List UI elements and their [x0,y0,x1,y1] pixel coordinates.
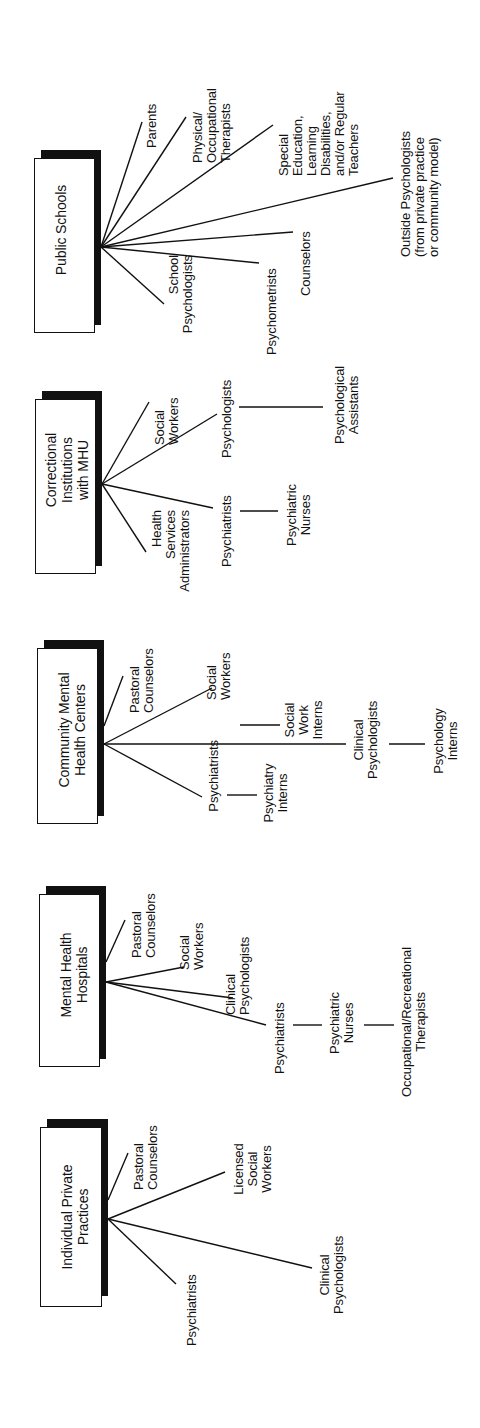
role-teachers: Special Education, Learning Disabilities… [277,56,361,176]
role-psychiatrists: Psychiatrists [220,457,234,567]
role-licensed-social-workers: Licensed Social Workers [232,1129,274,1209]
role-outside-psychologists: Outside Psychologists (from private prac… [399,77,441,257]
role-clinical-psychologists: Clinical Psychologists [224,895,252,1015]
role-pastoral-counselors: Pastoral Counselors [128,613,156,713]
role-clinical-psychologists: Clinical Psychologists [318,1220,346,1330]
label-public-schools: Public Schools [53,155,69,305]
role-parents: Parents [145,78,159,148]
subrole-psychiatric-nurses: Psychiatric Nurses [285,470,313,560]
label-mental-health-hospitals: Mental Health Hospitals [58,900,90,1050]
role-psychiatrists: Psychiatrists [207,740,221,850]
role-pastoral-counselors: Pastoral Counselors [130,848,158,958]
subrole-psychology-interns: Psychology Interns [432,696,460,786]
role-social-workers: Social Workers [153,365,181,445]
label-community-mhc: Community Mental Health Centers [56,650,88,810]
role-psychiatrists: Psychiatrists [273,954,287,1074]
subrole-psychiatry-interns: Psychiatry Interns [262,748,290,838]
subrole-social-work-interns: Social Work Interns [283,685,325,755]
role-health-services-administrators: Health Services Administrators [150,510,192,620]
org-roles-diagram: Public Schools Parents Physical/ Occupat… [0,0,480,1428]
role-counselors: Counselors [299,206,313,296]
role-psychologists: Psychologists [220,358,234,458]
role-social-workers: Social Workers [178,890,206,970]
label-correctional-institutions: Correctional Institutions with MHU [43,395,91,545]
subrole-psychological-assistants: Psychological Assistants [333,350,361,460]
role-physical-occupational-therapists: Physical/ Occupational Therapists [191,53,233,163]
role-social-workers: Social Workers [205,620,233,700]
role-school-psychologists: School Psychologists [167,255,195,365]
role-clinical-psychologists: Clinical Psychologists [352,685,380,795]
role-psychometrists: Psychometrists [265,235,279,355]
subrole-occupational-recreational-therapists: Occupational/Recreational Therapists [400,922,428,1122]
role-psychiatrists: Psychiatrists [185,1241,199,1346]
role-pastoral-counselors: Pastoral Counselors [132,1090,160,1190]
subrole-psychiatric-nurses: Psychiatric Nurses [328,978,356,1068]
label-individual-private-practices: Individual Private Practices [59,1142,91,1292]
